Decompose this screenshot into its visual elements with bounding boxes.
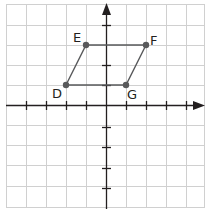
point-d [63, 82, 69, 88]
x-axis-arrow-icon [193, 101, 205, 110]
coordinate-plane: D E F G [0, 0, 207, 213]
point-e [83, 42, 89, 48]
label-f: F [150, 33, 157, 48]
x-axis [6, 101, 198, 110]
y-axis [102, 12, 111, 209]
point-f [143, 42, 149, 48]
label-g: G [127, 87, 137, 102]
label-e: E [73, 30, 81, 45]
label-d: D [52, 86, 62, 101]
